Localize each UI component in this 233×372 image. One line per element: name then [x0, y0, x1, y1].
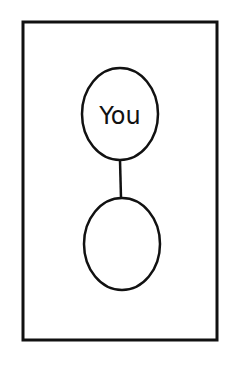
diagram-canvas: You	[0, 0, 233, 372]
node-empty	[84, 198, 160, 290]
node-you-label: You	[98, 102, 140, 130]
connector-line	[120, 160, 121, 198]
